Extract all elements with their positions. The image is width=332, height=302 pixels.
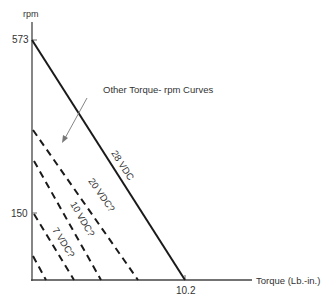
annotation-label: Other Torque- rpm Curves xyxy=(103,84,213,95)
series-28vdc-label: 28 VDC xyxy=(109,148,136,182)
y-tick-label-150: 150 xyxy=(11,208,28,219)
series-7vdc-label: 7 VDC? xyxy=(50,225,77,259)
series-20vdc-label: 20 VDC? xyxy=(86,176,117,214)
annotation-leader xyxy=(64,98,87,140)
y-tick-label-573: 573 xyxy=(12,34,29,45)
y-axis-label: rpm xyxy=(23,9,39,19)
x-tick-label-10-2: 10.2 xyxy=(176,285,196,296)
series-10vdc-label: 10 VDC? xyxy=(68,200,97,239)
chart-svg: rpm 573 150 10.2 Torque (Lb.-in.) 28 VDC… xyxy=(0,0,332,302)
torque-rpm-chart: rpm 573 150 10.2 Torque (Lb.-in.) 28 VDC… xyxy=(0,0,332,302)
arrow-icon xyxy=(62,135,68,143)
series-short-dashed-line xyxy=(33,256,46,280)
x-axis-label: Torque (Lb.-in.) xyxy=(256,275,320,286)
